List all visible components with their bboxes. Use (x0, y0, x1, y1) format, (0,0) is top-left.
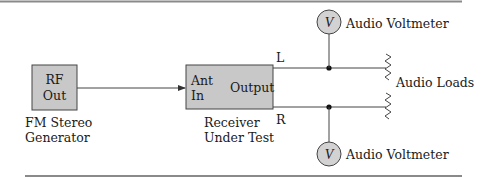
generator-box-label-2: Out (43, 88, 66, 103)
receiver-test-diagram: RF Out FM Stereo Generator Ant In Output… (0, 0, 488, 179)
receiver-caption-2: Under Test (204, 130, 274, 145)
generator-box-label-1: RF (45, 72, 63, 87)
audio-loads-label: Audio Loads (395, 75, 474, 90)
voltmeter-glyph: V (325, 15, 335, 30)
receiver-input-label-1: Ant (190, 73, 213, 88)
receiver-under-test: Ant In Output Receiver Under Test (186, 65, 274, 145)
bottom-voltmeter-label: Audio Voltmeter (345, 147, 449, 162)
diagram-canvas: RF Out FM Stereo Generator Ant In Output… (0, 0, 488, 179)
left-channel-label: L (276, 50, 284, 65)
receiver-input-label-2: In (191, 88, 204, 103)
top-audio-voltmeter: V Audio Voltmeter (317, 10, 449, 34)
voltmeter-glyph: V (325, 147, 335, 162)
top-voltmeter-label: Audio Voltmeter (345, 16, 449, 31)
left-load-resistor-icon (385, 54, 391, 80)
generator-caption-2: Generator (25, 130, 90, 145)
fm-stereo-generator: RF Out FM Stereo Generator (25, 65, 92, 145)
right-load-resistor-icon (385, 93, 391, 119)
receiver-caption-1: Receiver (204, 115, 260, 130)
right-channel-label: R (276, 112, 286, 127)
receiver-output-label: Output (230, 80, 274, 95)
bottom-audio-voltmeter: V Audio Voltmeter (317, 142, 449, 166)
generator-caption-1: FM Stereo (25, 115, 92, 130)
